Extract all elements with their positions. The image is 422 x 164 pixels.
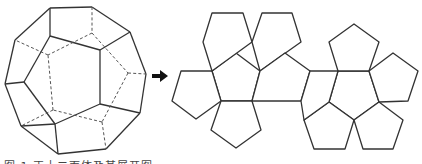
hidden-edge <box>53 110 102 122</box>
dodecahedron-net-figure <box>0 0 422 164</box>
visible-edge <box>140 74 146 113</box>
hidden-edge <box>102 73 128 122</box>
visible-edge <box>50 7 92 8</box>
visible-edge <box>24 82 55 124</box>
hidden-edge <box>128 73 146 74</box>
figure-caption: 图 1 正十二面体及其展开图 <box>4 157 153 164</box>
visible-edge <box>92 7 130 32</box>
hidden-edge <box>21 110 53 126</box>
visible-edge <box>106 113 140 149</box>
visible-edge <box>58 149 106 154</box>
hidden-edge <box>92 33 128 73</box>
visible-edge <box>5 40 15 84</box>
visible-edge <box>55 104 100 124</box>
hidden-edge <box>48 33 92 55</box>
visible-edge <box>130 32 146 74</box>
visible-edge <box>24 36 50 82</box>
visible-edge <box>100 104 140 113</box>
visible-edge <box>5 84 21 126</box>
pentagon-net <box>172 13 418 149</box>
visible-edge <box>100 32 130 50</box>
visible-edge <box>15 8 50 40</box>
visible-edge <box>5 82 24 84</box>
hidden-edge <box>102 122 106 149</box>
hidden-edge <box>48 55 53 110</box>
right-arrow-icon <box>152 70 168 82</box>
visible-edge <box>21 124 55 126</box>
visible-edge <box>50 36 100 50</box>
dodecahedron-visible-edges <box>5 7 146 154</box>
pentagon-face <box>172 71 221 119</box>
visible-edge <box>55 124 58 154</box>
visible-edge <box>21 126 58 154</box>
pentagon-face <box>369 53 418 102</box>
pentagon-face <box>211 101 261 148</box>
pentagon-face <box>329 24 379 71</box>
